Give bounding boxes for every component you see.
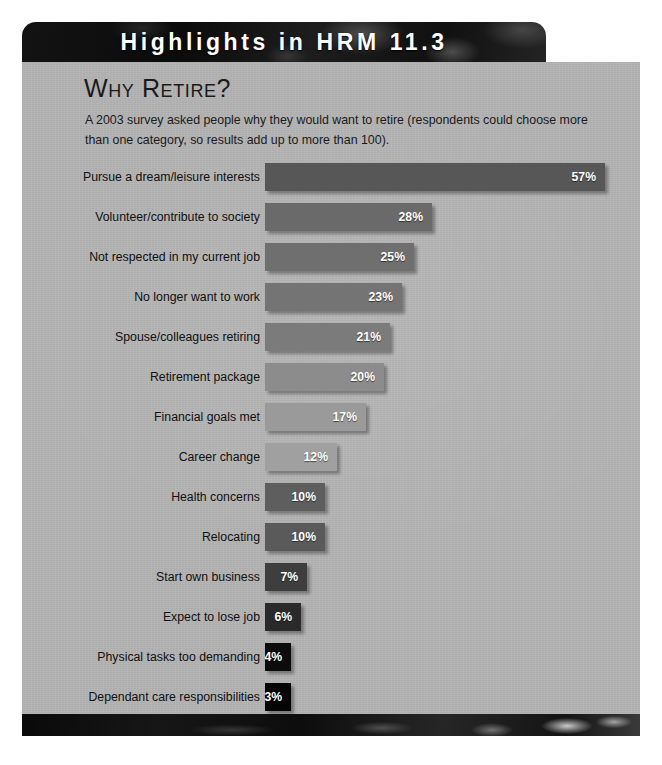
bar-category-label: Volunteer/contribute to society [22,197,260,237]
bar-value-label: 6% [274,603,292,631]
bar-category-label: Pursue a dream/leisure interests [22,157,260,197]
bar-value-label: 21% [357,323,381,351]
bar-category-label: No longer want to work [22,277,260,317]
bar-category-label: Spouse/colleagues retiring [22,317,260,357]
highlights-figure: Highlights in HRM 11.3 Why Retire? A 200… [0,0,662,765]
bar: 28% [265,203,432,231]
bar-category-label: Dependant care responsibilities [22,677,260,714]
bar-value-label: 12% [304,443,328,471]
bar: 25% [265,243,414,271]
bar-value-label: 4% [264,643,282,671]
chart-row: Not respected in my current job25% [22,237,640,277]
page-title: Why Retire? [84,74,231,103]
bar-wrapper: 10% [265,483,325,511]
chart-row: Health concerns10% [22,477,640,517]
bar: 21% [265,323,390,351]
bar-value-label: 7% [280,563,298,591]
bar-value-label: 17% [333,403,357,431]
bar-wrapper: 20% [265,363,384,391]
bar-value-label: 25% [381,243,405,271]
chart-row: Expect to lose job6% [22,597,640,637]
bar-wrapper: 7% [265,563,307,591]
bar-value-label: 10% [292,523,316,551]
bar: 17% [265,403,366,431]
chart-row: Retirement package20% [22,357,640,397]
bar: 23% [265,283,402,311]
chart-row: No longer want to work23% [22,277,640,317]
chart-row: Career change12% [22,437,640,477]
chart-row: Start own business7% [22,557,640,597]
footer-strip [22,714,640,736]
header-tab: Highlights in HRM 11.3 [22,22,546,62]
bar-chart: Pursue a dream/leisure interests57%Volun… [22,157,640,707]
bar-category-label: Expect to lose job [22,597,260,637]
chart-row: Spouse/colleagues retiring21% [22,317,640,357]
bar: 57% [265,163,605,191]
content-panel: Why Retire? A 2003 survey asked people w… [22,62,640,714]
bar: 20% [265,363,384,391]
bar-wrapper: 4% [265,643,291,671]
bar-wrapper: 3% [265,683,291,711]
bar-wrapper: 10% [265,523,325,551]
bar-category-label: Start own business [22,557,260,597]
chart-row: Financial goals met17% [22,397,640,437]
bar-wrapper: 17% [265,403,366,431]
bar: 10% [265,523,325,551]
bar-wrapper: 21% [265,323,390,351]
bar-value-label: 10% [292,483,316,511]
bar: 6% [265,603,301,631]
chart-row: Dependant care responsibilities3% [22,677,640,714]
bar-wrapper: 57% [265,163,605,191]
bar-value-label: 3% [264,683,282,711]
bar-wrapper: 23% [265,283,402,311]
page-subtitle: A 2003 survey asked people why they woul… [85,110,610,150]
bar-category-label: Retirement package [22,357,260,397]
bar: 12% [265,443,337,471]
bar-category-label: Not respected in my current job [22,237,260,277]
bar-value-label: 28% [399,203,423,231]
chart-row: Relocating10% [22,517,640,557]
bar-category-label: Physical tasks too demanding [22,637,260,677]
bar: 3% [265,683,291,711]
chart-row: Physical tasks too demanding4% [22,637,640,677]
bar-wrapper: 12% [265,443,337,471]
bar-wrapper: 6% [265,603,301,631]
bar: 4% [265,643,291,671]
bar-value-label: 20% [351,363,375,391]
bar-category-label: Health concerns [22,477,260,517]
header-title: Highlights in HRM 11.3 [22,22,546,62]
bar-category-label: Relocating [22,517,260,557]
bar-wrapper: 25% [265,243,414,271]
bar: 7% [265,563,307,591]
chart-row: Volunteer/contribute to society28% [22,197,640,237]
chart-row: Pursue a dream/leisure interests57% [22,157,640,197]
bar-value-label: 57% [572,163,596,191]
bar-value-label: 23% [369,283,393,311]
bar-category-label: Financial goals met [22,397,260,437]
bar-wrapper: 28% [265,203,432,231]
bar-category-label: Career change [22,437,260,477]
bar: 10% [265,483,325,511]
